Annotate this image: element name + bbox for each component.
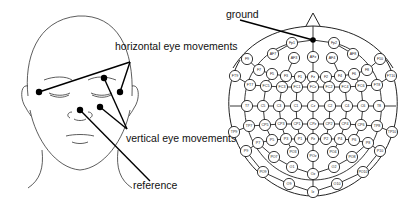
electrode-label: PO8 [348,155,355,159]
electrode-ft10: FT10 [385,70,396,81]
electrode-ft7: FT7 [244,79,255,90]
electrode-dot-left-canthus [36,89,42,95]
electrode-p6: P6 [348,134,359,145]
electrode-poz: POz [307,150,318,161]
electrode-label: TP10 [388,130,397,134]
electrode-label: P6 [352,138,356,142]
electrode-label: AF7 [270,52,277,56]
electrode-label: P9 [244,149,248,153]
mouth-upper [66,135,94,137]
electrode-label: P10 [377,149,383,153]
electrode-afz: AFz [307,51,318,62]
electrode-label: C2 [328,104,333,108]
electrode-fc2: FC2 [323,81,334,92]
electrode-label: POz [310,154,317,158]
electrode-label: F2 [324,75,328,79]
electrode-label: PO7 [270,155,277,159]
electrode-c6: C6 [357,100,368,111]
electrode-af7: AF7 [267,48,278,59]
electrode-f6: F6 [348,68,359,79]
electrode-f2: F2 [320,71,331,82]
electrode-label: CP4 [342,122,349,126]
electrode-label: P1 [298,137,302,141]
electrode-label: CP2 [326,122,333,126]
ground-pointer-line [240,20,313,40]
mouth-lower [72,142,88,144]
electrode-f8: F8 [361,64,372,75]
electrode-label: O9 [287,182,292,186]
electrode-f3: F3 [280,70,291,81]
figure-canvas: horizontal eye movements vertical eye mo… [0,0,414,204]
electrode-f10: F10 [374,53,385,64]
electrode-p1: P1 [294,133,305,144]
electrode-label: O10 [334,182,341,186]
electrode-oz: Oz [307,168,318,179]
right-ear [129,86,138,116]
electrode-label: P8 [366,141,370,145]
electrode-label: C6 [361,104,366,108]
electrode-f9: F9 [241,53,252,64]
face-diagram: horizontal eye movements vertical eye mo… [22,16,238,191]
electrode-label: F8 [365,68,369,72]
electrode-label: F3 [284,74,288,78]
electrode-fc4: FC4 [339,81,350,92]
pointer-horizontal-left [39,62,130,92]
electrode-label: FT8 [374,83,380,87]
electrode-p3: P3 [280,133,291,144]
electrode-label: CP6 [358,123,365,127]
electrode-p10: P10 [374,145,385,156]
electrode-label: FC4 [342,85,349,89]
electrode-tp8: TP8 [371,120,382,131]
electrode-af4: AF4 [326,52,337,63]
electrode-label: CP3 [278,122,285,126]
electrode-label: CPz [310,122,317,126]
electrode-cp2: CP2 [323,118,334,129]
electrode-po9: PO9 [257,166,268,177]
electrode-label: F4 [338,74,342,78]
electrode-dot-reference [77,107,83,113]
electrode-po7: PO7 [268,151,279,162]
electrode-label: FC5 [263,84,270,88]
nose-triangle [306,13,320,26]
electrode-cpz: CPz [307,118,318,129]
electrode-t8: T8 [373,100,384,111]
electrode-label: Pz [311,137,315,141]
electrode-label: Fp1 [289,41,295,45]
electrode-fp2: Fp2 [328,37,339,48]
electrode-fc5: FC5 [260,80,271,91]
electrode-label: CP5 [262,123,269,127]
right-eye [91,93,112,95]
electrode-fz: Fz [307,71,318,82]
electrode-po3: PO3 [287,146,298,157]
pointer-vertical-above [104,78,127,129]
label-horizontal-eye-movements: horizontal eye movements [115,40,238,52]
electrode-label: O2 [332,165,337,169]
electrode-fc1: FC1 [291,81,302,92]
electrode-cp5: CP5 [259,119,270,130]
electrode-cz: Cz [307,100,318,111]
label-vertical-eye-movements: vertical eye movements [126,132,236,144]
electrode-label: F6 [352,72,356,76]
electrode-label: P4 [338,137,342,141]
electrode-cp1: CP1 [291,118,302,129]
label-reference: reference [133,179,178,191]
label-ground: ground [226,8,259,20]
electrode-c4: C4 [341,100,352,111]
electrode-label: P2 [324,137,328,141]
electrode-po8: PO8 [346,151,357,162]
electrode-label: PO9 [259,170,266,174]
electrode-t7: T7 [241,100,252,111]
electrode-label: F5 [270,72,274,76]
electrode-c5: C5 [257,100,268,111]
pointer-vertical-below [100,107,127,129]
electrode-af3: AF3 [288,52,299,63]
electrode-po4: PO4 [327,146,338,157]
electrode-label: PO4 [329,150,336,154]
electrode-label: C4 [345,104,350,108]
electrode-label: FT10 [387,74,395,78]
electrode-label: Fp2 [331,41,337,45]
electrode-label: AF4 [329,56,336,60]
electrode-label: C3 [277,104,282,108]
electrode-p5: P5 [266,134,277,145]
electrode-label: C5 [261,104,266,108]
